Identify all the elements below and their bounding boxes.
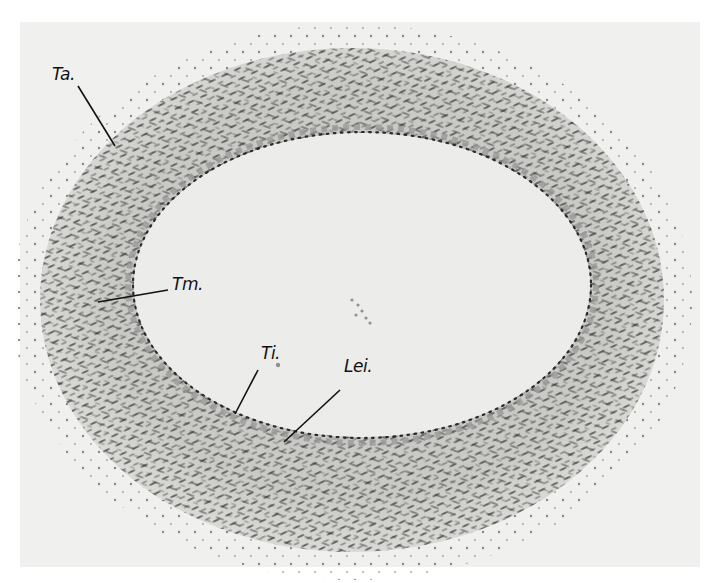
label-tunica-adventitia: Ta. (52, 66, 75, 83)
label-lamina-elastica-interna: Lei. (344, 358, 372, 375)
label-tunica-intima: Ti. (261, 345, 280, 362)
figure-frame: Ta. Tm. Ti. Lei. (0, 0, 714, 583)
label-tunica-media: Tm. (172, 276, 203, 293)
artery-cross-section (0, 0, 714, 583)
